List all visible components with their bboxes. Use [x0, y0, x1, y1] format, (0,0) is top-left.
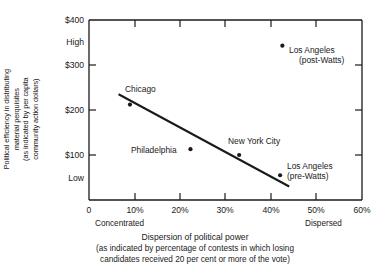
x-tick-label-60: 60%: [342, 205, 382, 215]
x-tick-label-20: 20%: [160, 205, 200, 215]
x-axis-title-sub-line-1: (as indicated by percentage of contests …: [0, 243, 390, 254]
x-tick-label-40: 40%: [251, 205, 291, 215]
point-label-la-pre-line-1: Los Angeles: [287, 161, 333, 171]
x-axis-endpoint-right: Dispersed: [305, 219, 342, 228]
x-axis-title-main: Dispersion of political power: [0, 232, 390, 243]
point-label-new-york-city: New York City: [228, 136, 280, 146]
data-point-philadelphia: [188, 147, 192, 151]
point-label-chicago: Chicago: [125, 84, 156, 94]
chart-figure: Political efficiency in distributing mat…: [0, 0, 390, 268]
x-tick-label-10: 10%: [115, 205, 155, 215]
point-label-los-angeles-pre-watts: Los Angeles (pre-Watts): [287, 161, 333, 181]
point-label-la-pre-line-2: (pre-Watts): [287, 171, 333, 181]
point-label-new-york-city-line-1: New York City: [228, 136, 280, 146]
data-point-chicago: [128, 103, 132, 107]
data-point-los-angeles-post-watts: [280, 44, 284, 48]
point-label-philadelphia: Philadelphia: [131, 145, 177, 155]
point-label-chicago-line-1: Chicago: [125, 84, 156, 94]
point-label-la-post-line-2: (post-Watts): [289, 55, 344, 65]
x-tick-label-30: 30%: [205, 205, 245, 215]
x-axis-title-sub-line-2: candidates received 20 per cent or more …: [0, 254, 390, 265]
point-label-los-angeles-post-watts: Los Angeles (post-Watts): [289, 45, 344, 65]
data-point-los-angeles-pre-watts: [278, 173, 282, 177]
point-label-philadelphia-line-1: Philadelphia: [131, 145, 177, 155]
x-tick-label-0: 0: [69, 205, 109, 215]
x-tick-label-50: 50%: [296, 205, 336, 215]
x-axis-endpoint-left: Concentrated: [95, 219, 144, 228]
x-axis-title: Dispersion of political power (as indica…: [0, 232, 390, 265]
point-label-la-post-line-1: Los Angeles: [289, 45, 344, 55]
data-point-new-york-city: [237, 153, 241, 157]
